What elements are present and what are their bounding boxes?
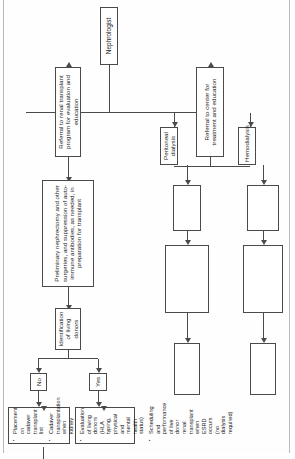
- arrow-split-to-pd: [172, 122, 178, 127]
- node-cadaver-outcomes: Placement on cadaver transplant list Cad…: [8, 407, 70, 444]
- node-referral-center: Referral to center for treatment and edu…: [196, 67, 224, 157]
- node-peritoneal-dialysis-label: Peritoneal dialysis: [162, 130, 177, 162]
- arrow-split-to-hd: [248, 122, 254, 127]
- node-preliminary-label: Preliminary nephrectomy and other surger…: [53, 183, 82, 284]
- node-identification: Identification of living donors: [55, 308, 81, 350]
- node-decision-yes: Yes: [89, 373, 107, 391]
- node-referral-transplant-label: Referral to renal transplant program for…: [57, 70, 79, 154]
- list-item: Placement on cadaver transplant list: [12, 411, 45, 441]
- connector-identification-stem: [68, 350, 69, 359]
- node-nephrologist: Nephrologist: [100, 7, 118, 65]
- connector-center-split: [174, 166, 250, 167]
- node-nephrologist-label: Nephrologist: [105, 10, 113, 62]
- living-donor-outcome-list: Evaluation of living donors (HLA typing,…: [79, 411, 234, 441]
- node-preliminary: Preliminary nephrectomy and other surger…: [42, 180, 94, 287]
- node-hemodialysis-label: Hemodialysis: [243, 130, 250, 162]
- node-decision-no-label: No: [35, 376, 42, 388]
- arrow-center-to-hd: [101, 406, 107, 411]
- node-decision-no: No: [30, 373, 47, 391]
- node-living-donor-outcomes: Evaluation of living donors (HLA typing,…: [75, 407, 135, 444]
- arrow-center-to-pd: [41, 406, 47, 411]
- node-referral-transplant: Referral to renal transplant program for…: [55, 67, 81, 157]
- node-identification-label: Identification of living donors: [57, 311, 79, 347]
- node-peritoneal-dialysis: Peritoneal dialysis: [160, 127, 178, 165]
- node-hemodialysis: Hemodialysis: [238, 127, 256, 165]
- node-decision-yes-label: Yes: [94, 376, 101, 388]
- connector-nephrologist-out: [109, 65, 110, 113]
- list-item: Scheduling and performance of live donor…: [148, 411, 234, 441]
- node-referral-center-label: Referral to center for treatment and edu…: [203, 70, 218, 154]
- connector-pd-to-evalpd: [43, 447, 44, 459]
- connector-root-split: [26, 112, 210, 113]
- list-item: Evaluation of living donors (HLA typing,…: [79, 411, 145, 441]
